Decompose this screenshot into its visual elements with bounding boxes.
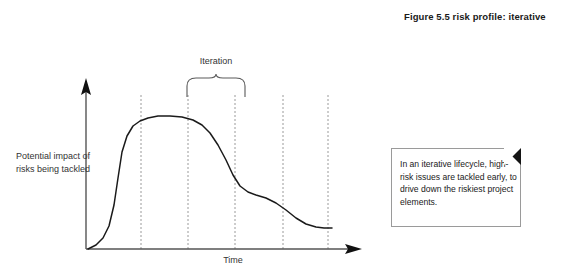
gridlines: [141, 95, 328, 249]
x-axis: [86, 244, 362, 254]
figure-canvas: Figure 5.5 risk profile: iterative Poten…: [0, 0, 561, 280]
risk-profile-chart: [0, 0, 561, 280]
risk-curve: [88, 116, 332, 249]
x-axis-label: Time: [203, 255, 263, 265]
callout-box: In an iterative lifecycle, high-risk iss…: [391, 148, 521, 227]
folded-corner-mask-icon: [504, 148, 521, 165]
callout-text: In an iterative lifecycle, high-risk iss…: [400, 158, 518, 208]
iteration-brace: [187, 74, 245, 97]
figure-caption: Figure 5.5 risk profile: iterative: [404, 10, 554, 24]
iteration-label: Iteration: [186, 56, 246, 66]
y-axis-label: Potential impact of risks being tackled: [14, 150, 92, 175]
